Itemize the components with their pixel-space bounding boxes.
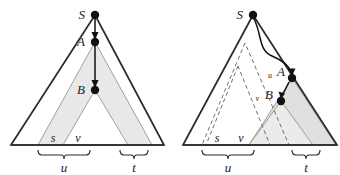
left-brace-label-t: t [132, 160, 136, 175]
left-panel: S A B s v u t [11, 7, 164, 175]
left-node-S [91, 11, 99, 19]
left-brace-t [120, 150, 148, 159]
right-node-A [288, 74, 296, 82]
right-brace-u [202, 150, 254, 159]
left-brace-label-u: u [61, 160, 68, 175]
right-node-S [249, 11, 257, 19]
left-brace-u [38, 150, 90, 159]
right-label-S: S [237, 7, 244, 22]
right-brace-label-u: u [225, 160, 232, 175]
right-node-B [277, 97, 285, 105]
right-label-s: s [215, 131, 220, 145]
left-label-A: A [76, 34, 85, 49]
figure-container: S A B s v u t S [0, 0, 340, 175]
diagram-svg: S A B s v u t S [0, 0, 340, 175]
left-node-B [91, 86, 99, 94]
right-label-A-prefix: u [268, 71, 272, 80]
right-label-v: v [238, 131, 244, 145]
left-label-S: S [79, 7, 86, 22]
left-label-s: s [51, 131, 56, 145]
right-label-B-prefix: v [255, 94, 259, 103]
right-brace-t [292, 150, 320, 159]
right-panel: S u A v B s v u t [183, 7, 337, 175]
right-label-B: B [265, 87, 273, 102]
left-label-v: v [75, 131, 81, 145]
left-label-B: B [77, 82, 85, 97]
right-label-A: A [276, 64, 285, 79]
right-brace-label-t: t [304, 160, 308, 175]
left-node-A [91, 38, 99, 46]
